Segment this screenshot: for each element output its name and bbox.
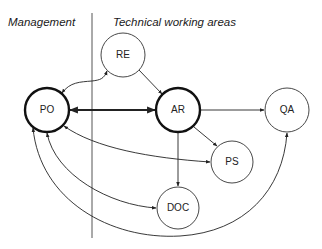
- node-label-ps: PS: [210, 156, 254, 168]
- node-label-ar: AR: [156, 104, 200, 116]
- edge-po-qa: [33, 128, 287, 236]
- node-label-qa: QA: [265, 104, 309, 116]
- node-label-re: RE: [101, 49, 145, 61]
- area-label-technical: Technical working areas: [113, 16, 236, 28]
- node-label-po: PO: [25, 104, 69, 116]
- edge-ar-ps: [194, 127, 217, 146]
- node-label-doc: DOC: [156, 202, 200, 214]
- edge-po-ps: [64, 126, 210, 162]
- edge-po-re: [62, 71, 107, 93]
- diagram-canvas: Management Technical working areas PO RE…: [0, 0, 322, 249]
- edge-re-ar: [139, 70, 162, 94]
- area-label-management: Management: [8, 16, 75, 28]
